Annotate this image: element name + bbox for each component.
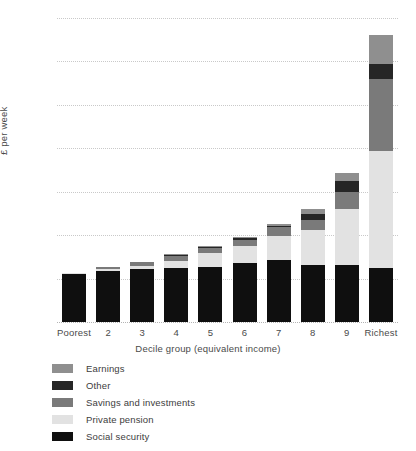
bar xyxy=(164,254,188,322)
legend-label: Private pension xyxy=(86,414,154,425)
plot-area xyxy=(57,18,398,322)
bar-segment xyxy=(301,265,325,322)
legend-item: Private pension xyxy=(52,411,195,428)
bar-segment xyxy=(233,246,257,263)
legend-item: Earnings xyxy=(52,360,195,377)
x-axis-title: Decile group (equivalent income) xyxy=(0,343,416,354)
bar xyxy=(96,267,120,322)
x-axis-tick-label: Richest xyxy=(353,327,409,338)
legend-label: Earnings xyxy=(86,363,125,374)
bar-segment xyxy=(335,192,359,209)
legend-label: Other xyxy=(86,380,111,391)
bar-segment xyxy=(267,260,291,322)
bar-segment xyxy=(96,271,120,322)
bar-segment xyxy=(62,274,86,322)
legend-item: Savings and investments xyxy=(52,394,195,411)
legend-swatch xyxy=(52,415,73,424)
legend-swatch xyxy=(52,432,73,441)
bar-segment xyxy=(164,268,188,322)
bar-segment xyxy=(233,240,257,247)
bar xyxy=(267,224,291,322)
bar-segment xyxy=(369,268,393,322)
bar-segment xyxy=(267,227,291,236)
bar-segment xyxy=(335,181,359,191)
legend-label: Social security xyxy=(86,431,150,442)
bar-segment xyxy=(369,79,393,151)
bar-segment xyxy=(130,269,154,322)
legend-swatch xyxy=(52,381,73,390)
bar xyxy=(62,273,86,322)
axis-baseline xyxy=(57,322,398,323)
bar-segment xyxy=(335,265,359,322)
bar-segment xyxy=(369,64,393,79)
bar-group xyxy=(57,18,398,322)
bar-segment xyxy=(335,173,359,182)
bar xyxy=(335,173,359,322)
bar-segment xyxy=(198,253,222,267)
y-axis-title: £ per week xyxy=(0,107,9,155)
bar-segment xyxy=(198,267,222,322)
bar xyxy=(233,237,257,322)
bar xyxy=(369,35,393,322)
bar-segment xyxy=(369,35,393,64)
bar-segment xyxy=(164,261,188,268)
legend-item: Other xyxy=(52,377,195,394)
bar-segment xyxy=(267,236,291,260)
bar xyxy=(130,262,154,322)
legend-item: Social security xyxy=(52,428,195,445)
bar-segment xyxy=(233,263,257,322)
bar-segment xyxy=(301,220,325,230)
stacked-bar-chart: £ per week 050100150200250300350 Poorest… xyxy=(0,0,416,451)
bar xyxy=(301,209,325,322)
bar-segment xyxy=(301,230,325,265)
bar-segment xyxy=(369,151,393,268)
bar-segment xyxy=(335,209,359,265)
chart-legend: EarningsOtherSavings and investmentsPriv… xyxy=(52,360,195,445)
legend-label: Savings and investments xyxy=(86,397,195,408)
legend-swatch xyxy=(52,398,73,407)
bar xyxy=(198,246,222,322)
legend-swatch xyxy=(52,364,73,373)
